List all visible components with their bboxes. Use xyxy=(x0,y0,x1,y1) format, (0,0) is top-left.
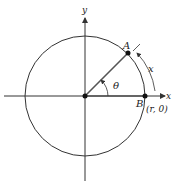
arc-length-label: x xyxy=(148,63,154,74)
unit-circle-diagram: y x A B (r, 0) θ x xyxy=(0,0,182,187)
x-axis-label: x xyxy=(166,91,171,101)
angle-arc-icon xyxy=(101,80,108,96)
angle-theta-label: θ xyxy=(113,80,119,91)
radius-line-oa xyxy=(85,53,128,96)
point-a xyxy=(126,51,131,56)
point-b-label: B xyxy=(135,98,143,109)
y-axis-label: y xyxy=(81,5,88,15)
point-b-coordinate: (r, 0) xyxy=(146,104,168,114)
arc-tick-a xyxy=(133,44,140,51)
origin-point xyxy=(83,94,88,99)
point-a-label: A xyxy=(122,40,130,51)
